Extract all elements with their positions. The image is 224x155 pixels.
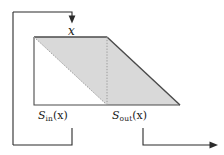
s-out-arg: (x) [132,109,147,122]
top-bracket-line [13,12,72,17]
s-out-subscript: out [120,114,133,123]
s-out-base: S [112,109,120,122]
right-arrowhead-icon [210,142,219,149]
s-in-arg: (x) [53,109,68,122]
diagram-svg [0,0,224,155]
label-s-in: Sin(x) [38,110,68,121]
bottom-right-bracket [143,128,211,145]
top-arrowhead-icon [69,16,76,24]
s-in-base: S [38,109,46,122]
bottom-left-bracket [13,128,72,145]
label-s-out: Sout(x) [112,110,147,121]
label-x: x [0,25,224,37]
figure-container: x Sin(x) Sout(x) [0,0,224,155]
s-in-subscript: in [46,114,54,123]
